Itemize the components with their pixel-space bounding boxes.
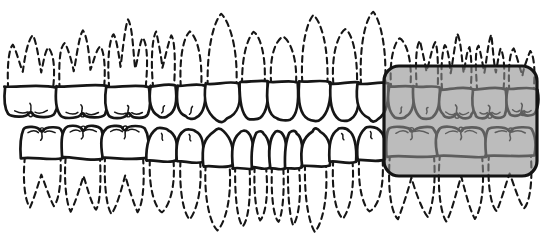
tooth-lower-5-premolar [176,129,203,219]
crown-detail [189,134,191,141]
tooth-root-outline [59,30,104,90]
tooth-crown [330,82,360,121]
tooth-crown [299,81,331,121]
tooth-lower-11-canine [301,128,330,232]
tooth-crown [267,81,298,120]
tooth-crown [240,81,268,120]
tooth-crown [252,131,271,169]
tooth-lower-13-premolar [357,127,386,212]
dental-figure-svg [0,0,556,240]
tooth-upper-7-incisor [240,32,268,120]
tooth-upper-5-premolar [177,31,206,119]
tooth-lower-10-incisor [285,131,303,225]
tooth-root-outline [105,155,144,214]
tooth-lower-12-premolar [329,128,356,218]
tooth-root-outline [208,14,237,87]
cusp-ring-icon [81,126,85,130]
tooth-root-outline [235,166,250,227]
tooth-root-outline [8,35,54,89]
tooth-upper-4-premolar [150,32,177,118]
tooth-root-outline [205,164,230,230]
tooth-upper-2-molar [56,30,108,118]
tooth-lower-6-canine [203,129,234,231]
tooth-root-outline [271,37,296,85]
tooth-root-outline [305,164,326,232]
tooth-root-outline [361,12,386,86]
highlight-region [384,66,537,176]
tooth-crown [177,84,206,118]
tooth-lower-9-incisor [269,131,286,222]
tooth-root-outline [24,156,61,208]
tooth-root-outline [180,160,200,219]
tooth-lower-1-molar [20,127,64,208]
tooth-root-outline [152,32,175,89]
tooth-crown [285,131,303,169]
tooth-root-outline [333,159,353,218]
tooth-lower-8-incisor [252,131,271,220]
tooth-upper-9-incisor [299,15,331,121]
tooth-upper-1-molar [4,35,58,117]
scanned-figure-page [0,0,556,240]
tooth-crown [203,129,234,167]
tooth-lower-7-incisor [232,131,253,227]
tooth-upper-6-canine [205,14,240,122]
tooth-root-outline [288,166,300,225]
crown-detail [162,133,163,140]
tooth-lower-3-molar [101,126,148,214]
tooth-crown [329,128,356,163]
tooth-root-outline [180,31,201,88]
tooth-root-outline [254,166,267,220]
tooth-root-outline [108,19,147,88]
tooth-root-outline [65,156,100,212]
crown-detail [370,132,372,139]
tooth-root-outline [359,158,383,212]
dental-arches-figure [0,0,556,240]
cusp-ring-icon [29,113,33,117]
tooth-root-outline [302,15,328,85]
tooth-crown [205,82,240,122]
tooth-upper-8-incisor [267,37,298,121]
tooth-root-outline [272,166,284,222]
tooth-root-outline [242,32,265,85]
tooth-lower-2-molar [62,126,104,212]
tooth-upper-10-incisor [330,29,360,121]
highlight-fill [384,66,537,176]
tooth-lower-4-premolar [146,128,177,212]
tooth-crown [301,128,330,166]
tooth-root-outline [333,29,357,85]
tooth-root-outline [150,158,174,212]
tooth-upper-3-molar [105,19,150,118]
